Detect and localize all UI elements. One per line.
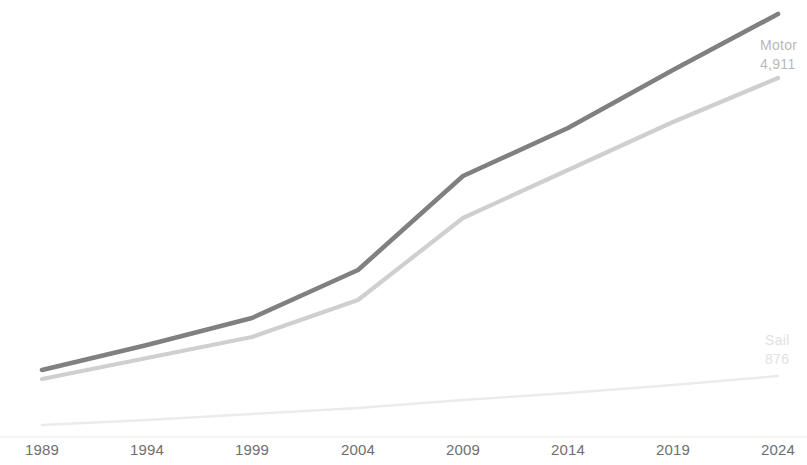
series-line-lower: [42, 376, 778, 425]
series-label-motor-value: 4,911: [760, 55, 797, 74]
x-tick-2019: 2019: [656, 441, 690, 458]
series-label-sail-value: 876: [765, 350, 790, 369]
series-label-motor: Motor 4,911: [760, 36, 797, 74]
series-line-motor: [42, 14, 778, 370]
x-tick-2009: 2009: [446, 441, 480, 458]
x-axis-tick-labels: 1989 1994 1999 2004 2009 2014 2019 2024: [0, 441, 807, 465]
x-tick-1999: 1999: [235, 441, 269, 458]
series-label-sail-name: Sail: [765, 331, 790, 350]
x-tick-1994: 1994: [130, 441, 164, 458]
series-label-sail: Sail 876: [765, 331, 790, 369]
line-chart: Motor 4,911 Sail 876 1989 1994 1999 2004…: [0, 0, 807, 465]
series-label-motor-name: Motor: [760, 36, 797, 55]
x-tick-2004: 2004: [341, 441, 375, 458]
series-line-sail: [42, 78, 778, 379]
x-tick-1989: 1989: [25, 441, 59, 458]
x-tick-2024: 2024: [761, 441, 795, 458]
x-tick-2014: 2014: [551, 441, 585, 458]
chart-plot-area: [0, 0, 807, 465]
